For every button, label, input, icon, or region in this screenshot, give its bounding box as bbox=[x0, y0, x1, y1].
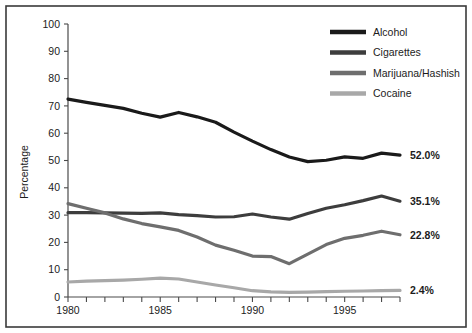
y-tick-label: 0 bbox=[54, 291, 60, 303]
end-label-alcohol: 52.0% bbox=[410, 149, 440, 161]
data-series-group bbox=[68, 99, 400, 292]
y-axis: 0102030405060708090100 bbox=[42, 18, 68, 303]
y-tick-label: 80 bbox=[48, 72, 60, 84]
end-label-marijuana-hashish: 22.8% bbox=[410, 229, 440, 241]
y-tick-label: 10 bbox=[48, 263, 60, 275]
y-tick-label: 40 bbox=[48, 181, 60, 193]
x-axis: 1980198519901995 bbox=[56, 297, 400, 316]
legend-label-alcohol: Alcohol bbox=[373, 26, 407, 38]
y-tick-label: 50 bbox=[48, 154, 60, 166]
line-chart: 0102030405060708090100 1980198519901995 … bbox=[0, 0, 472, 333]
y-axis-title: Percentage bbox=[18, 145, 30, 199]
series-line-cocaine bbox=[68, 278, 400, 292]
end-label-cigarettes: 35.1% bbox=[410, 195, 440, 207]
x-tick-label: 1995 bbox=[333, 304, 357, 316]
legend-label-marijuana-hashish: Marijuana/Hashish bbox=[373, 67, 460, 79]
y-tick-label: 90 bbox=[48, 45, 60, 57]
y-tick-label: 100 bbox=[42, 18, 60, 30]
legend-label-cocaine: Cocaine bbox=[373, 87, 412, 99]
chart-legend: AlcoholCigarettesMarijuana/HashishCocain… bbox=[330, 26, 460, 100]
series-line-alcohol bbox=[68, 99, 400, 162]
y-tick-label: 30 bbox=[48, 209, 60, 221]
y-tick-label: 60 bbox=[48, 127, 60, 139]
y-tick-label: 70 bbox=[48, 100, 60, 112]
y-tick-label: 20 bbox=[48, 236, 60, 248]
chart-figure: 0102030405060708090100 1980198519901995 … bbox=[0, 0, 472, 333]
series-end-labels: 52.0%35.1%22.8%2.4% bbox=[410, 149, 440, 296]
x-tick-label: 1985 bbox=[149, 304, 173, 316]
x-tick-label: 1980 bbox=[56, 304, 80, 316]
end-label-cocaine: 2.4% bbox=[410, 284, 435, 296]
legend-label-cigarettes: Cigarettes bbox=[373, 46, 421, 58]
x-tick-label: 1990 bbox=[241, 304, 265, 316]
